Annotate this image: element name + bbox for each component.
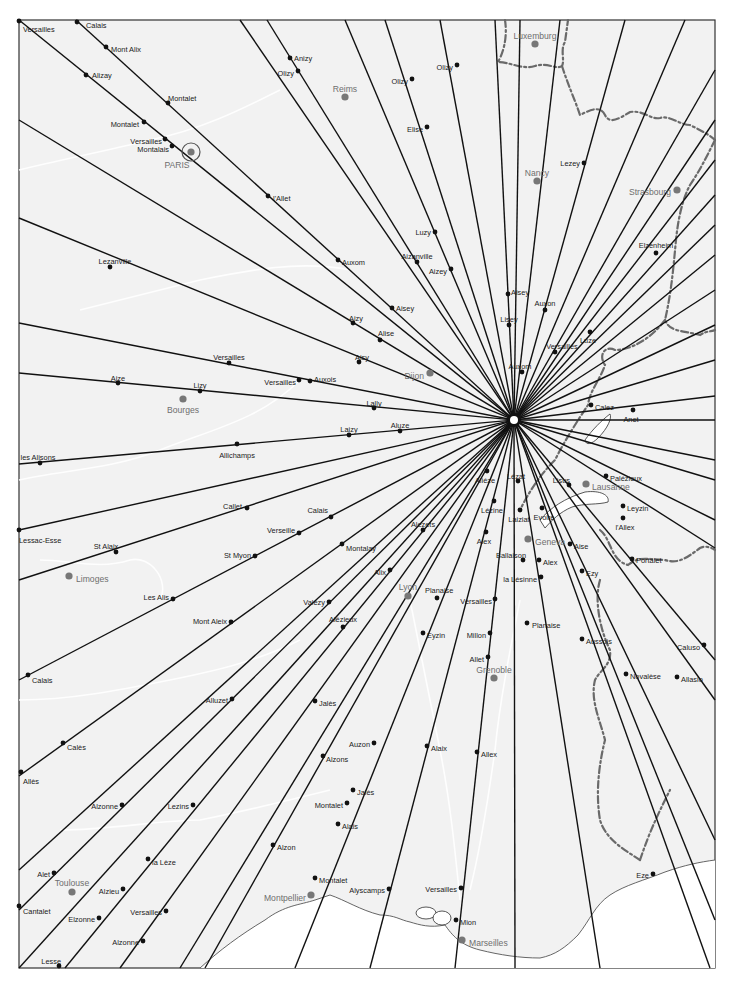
stop-dot-icon bbox=[580, 637, 585, 642]
stop-dot-icon bbox=[17, 904, 22, 909]
stop-marker[interactable]: Versailles bbox=[460, 597, 497, 606]
stop-dot-icon bbox=[568, 542, 573, 547]
stop-dot-icon bbox=[485, 469, 490, 474]
stop-label: Aizey bbox=[429, 267, 447, 276]
stop-dot-icon bbox=[624, 672, 629, 677]
stop-dot-icon bbox=[702, 643, 707, 648]
city-label: Toulouse bbox=[55, 878, 90, 888]
stop-label: Alise bbox=[378, 329, 394, 338]
stop-label: Alex bbox=[477, 537, 492, 546]
stop-marker[interactable]: Versailles bbox=[264, 378, 301, 387]
stop-marker[interactable]: Palézieux bbox=[604, 474, 643, 483]
city-label: PARIS bbox=[164, 160, 189, 170]
stop-label: Versailles bbox=[23, 25, 55, 34]
stop-label: Montalet bbox=[168, 94, 196, 103]
central-hub[interactable] bbox=[507, 413, 521, 427]
stop-label: Lezanville bbox=[99, 257, 132, 266]
stop-dot-icon bbox=[61, 741, 66, 746]
stop-dot-icon bbox=[604, 474, 609, 479]
stop-label: Planaise bbox=[425, 586, 453, 595]
hub-inner-icon bbox=[510, 416, 518, 424]
stop-dot-icon bbox=[449, 267, 454, 272]
stop-dot-icon bbox=[229, 620, 234, 625]
stop-dot-icon bbox=[372, 741, 377, 746]
stop-dot-icon bbox=[97, 916, 102, 921]
stop-label: Calais bbox=[32, 676, 53, 685]
stop-label: la Lésinne bbox=[503, 575, 537, 584]
stop-label: Laizy bbox=[340, 425, 358, 434]
stop-label: Alzonne bbox=[91, 802, 118, 811]
stop-dot-icon bbox=[435, 596, 440, 601]
stop-label: Mion bbox=[460, 918, 476, 927]
city-dot-icon bbox=[187, 148, 194, 155]
stop-dot-icon bbox=[345, 801, 350, 806]
stop-label: Versailles bbox=[130, 908, 162, 917]
stop-dot-icon bbox=[340, 542, 345, 547]
stop-label: Montalet bbox=[319, 876, 347, 885]
stop-dot-icon bbox=[336, 258, 341, 263]
stop-dot-icon bbox=[351, 788, 356, 793]
stop-dot-icon bbox=[341, 625, 346, 630]
stop-label: Calais bbox=[307, 506, 328, 515]
etang-de-berre bbox=[433, 911, 451, 925]
stop-dot-icon bbox=[537, 558, 542, 563]
stop-dot-icon bbox=[19, 770, 24, 775]
city-label: Lyon bbox=[399, 582, 418, 592]
stop-label: Elzenheim bbox=[639, 241, 674, 250]
stop-dot-icon bbox=[654, 251, 659, 256]
stop-label: l'Allex bbox=[615, 523, 634, 532]
stop-dot-icon bbox=[486, 655, 491, 660]
stop-dot-icon bbox=[75, 20, 80, 25]
stop-label: Mont Alix bbox=[111, 45, 141, 54]
stop-label: Alais bbox=[342, 822, 358, 831]
stop-label: Jalès bbox=[319, 699, 337, 708]
city-dot-icon bbox=[65, 572, 72, 579]
stop-dot-icon bbox=[475, 750, 480, 755]
stop-label: Alix bbox=[374, 568, 386, 577]
stop-label: Anet bbox=[623, 415, 638, 424]
stop-label: Verseille bbox=[267, 526, 295, 535]
stop-dot-icon bbox=[378, 338, 383, 343]
stop-dot-icon bbox=[321, 754, 326, 759]
stop-dot-icon bbox=[313, 876, 318, 881]
stop-dot-icon bbox=[630, 557, 635, 562]
stop-dot-icon bbox=[235, 442, 240, 447]
stop-label: Calès bbox=[67, 743, 86, 752]
stop-label: Aizy bbox=[349, 314, 363, 323]
stop-marker[interactable]: Montalay bbox=[340, 542, 377, 553]
stop-label: Montalais bbox=[137, 145, 169, 154]
stop-dot-icon bbox=[388, 568, 393, 573]
stop-dot-icon bbox=[589, 403, 594, 408]
route-map[interactable]: PARISReimsLuxemburgNancyStrasbourgDijonB… bbox=[0, 0, 738, 983]
stop-marker[interactable]: Novalèse bbox=[624, 672, 661, 681]
city-label: Bourges bbox=[167, 405, 199, 415]
stop-dot-icon bbox=[171, 597, 176, 602]
stop-dot-icon bbox=[104, 45, 109, 50]
stop-label: Auxom bbox=[342, 258, 365, 267]
city-dot-icon bbox=[458, 936, 465, 943]
city-dot-icon bbox=[531, 40, 538, 47]
stop-dot-icon bbox=[582, 161, 587, 166]
stop-label: Mont Aleix bbox=[193, 617, 227, 626]
stop-label: Millon bbox=[467, 631, 486, 640]
stop-dot-icon bbox=[390, 306, 395, 311]
stop-label: Montalay bbox=[346, 544, 376, 553]
stop-label: Lally bbox=[366, 399, 382, 408]
city-label: Luxemburg bbox=[514, 31, 557, 41]
stop-label: Aluze bbox=[391, 421, 410, 430]
stop-dot-icon bbox=[121, 887, 126, 892]
stop-dot-icon bbox=[387, 887, 392, 892]
stop-label: Aussois bbox=[586, 637, 612, 646]
stop-label: Calez bbox=[595, 403, 614, 412]
stop-dot-icon bbox=[141, 939, 146, 944]
stop-label: Montalet bbox=[315, 801, 343, 810]
route-ray[interactable] bbox=[514, 420, 515, 968]
stop-label: Lézat bbox=[507, 472, 525, 481]
city-dot-icon bbox=[524, 535, 531, 542]
stop-label: Aisey bbox=[396, 304, 414, 313]
stop-dot-icon bbox=[17, 528, 22, 533]
stop-label: Palézieux bbox=[610, 474, 642, 483]
stop-marker[interactable]: Montalais bbox=[137, 144, 174, 154]
stop-dot-icon bbox=[425, 125, 430, 130]
city-label: Dijon bbox=[404, 371, 424, 381]
